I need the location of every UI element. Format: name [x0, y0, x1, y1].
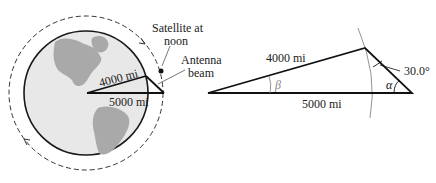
south-america	[93, 106, 129, 154]
triangle-figure: β α 30.0° 4000 mi 5000 mi	[208, 28, 430, 118]
alpha-arc	[394, 80, 400, 93]
angle-alpha-label: α	[386, 78, 393, 92]
angle-given-label: 30.0°	[404, 64, 430, 78]
earth-orbit-figure: 4000 mi 5000 mi Satellite at noon Antenn…	[9, 16, 222, 170]
antenna-label-line2: beam	[188, 66, 215, 80]
angle-30-leader	[380, 65, 400, 71]
triangle	[208, 48, 412, 93]
diagram-canvas: 4000 mi 5000 mi Satellite at noon Antenn…	[0, 0, 436, 183]
satellite-label-line2: noon	[164, 34, 188, 48]
side-top-label: 4000 mi	[266, 51, 306, 65]
satellite-dot	[159, 69, 164, 74]
satellite-leader	[162, 46, 170, 66]
angle-beta-label: β	[274, 78, 281, 92]
orbit-radius-label: 5000 mi	[109, 95, 149, 109]
earth-surface-arc	[358, 28, 372, 118]
orbit-arrow-icon	[139, 38, 145, 44]
satellite-label-line1: Satellite at	[152, 21, 204, 35]
antenna-label-line1: Antenna	[181, 53, 222, 67]
side-bottom-label: 5000 mi	[302, 97, 342, 111]
beta-arc	[269, 76, 271, 93]
